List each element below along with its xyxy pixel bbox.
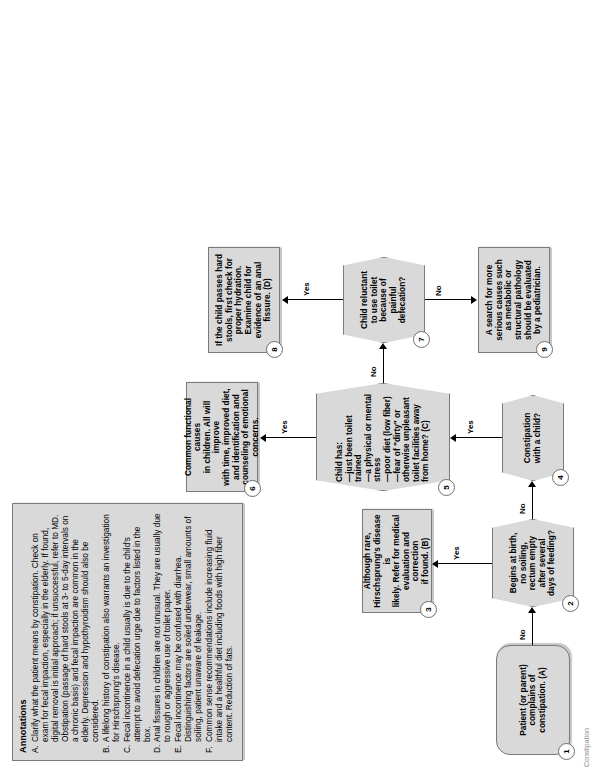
edge-label-4-to-5: Yes: [466, 420, 475, 434]
edge-7-to-8-arrow: [282, 296, 288, 304]
node-1-number-bubble: 1: [558, 743, 575, 760]
edge-2-to-3-line: [438, 563, 492, 564]
node-7-child-reluctant: Child reluctant to use toilet because of…: [343, 257, 425, 343]
edge-label-1-to-2: No: [518, 629, 527, 640]
annotation-key: D.: [153, 742, 173, 753]
flowchart-canvas: Annotations A. Clarify what the patient …: [0, 0, 594, 773]
edge-1-to-2-line: [532, 613, 533, 645]
edge-label-5-to-6: Yes: [280, 420, 289, 434]
node-8-number-bubble: 8: [266, 341, 283, 358]
node-2-text: Begins at birth, no soiling, rectum empt…: [509, 519, 557, 607]
annotation-item: A. Clarify what the patient means by con…: [31, 511, 101, 753]
node-6-common-functional-causes: Common functional causes in children. Al…: [186, 382, 258, 492]
node-7-number: 7: [417, 337, 426, 341]
node-8-number: 8: [270, 347, 279, 351]
node-3-number-bubble: 3: [420, 601, 437, 618]
edge-2-to-4-line: [532, 487, 533, 519]
annotations-panel: Annotations A. Clarify what the patient …: [12, 503, 243, 761]
edge-label-7-to-9: No: [434, 285, 443, 296]
node-3-text: Although rare, Hirschsprung's disease is…: [363, 514, 430, 608]
page-footer-label: Constipation: [583, 728, 590, 767]
annotation-text: Anal fissures in children are not unusua…: [153, 511, 173, 742]
edge-label-2-to-3: Yes: [452, 546, 461, 560]
annotation-key: E.: [174, 742, 204, 753]
annotation-text: Common sense recommendations include inc…: [205, 511, 235, 742]
annotations-list: A. Clarify what the patient means by con…: [31, 511, 235, 753]
annotation-key: F.: [205, 742, 235, 753]
annotation-item: E. Fecal incontinence may be confused wi…: [174, 511, 204, 753]
edge-5-to-6-arrow: [260, 434, 266, 442]
annotation-item: B. A lifelong history of constipation al…: [102, 511, 122, 753]
annotation-text: A lifelong history of constipation also …: [102, 511, 122, 742]
node-5-child-has: Child has: —just been toilet trained —a …: [316, 383, 450, 491]
node-8-hard-stools-hydration: If the child passes hard stools, first c…: [208, 247, 280, 353]
node-7-text: Child reluctant to use toilet because of…: [360, 257, 408, 343]
annotation-item: D. Anal fissures in children are not unu…: [153, 511, 173, 753]
annotation-text: Fecal incontinence may be confused with …: [174, 511, 204, 742]
node-5-number: 5: [442, 485, 451, 489]
node-4-constipation-with-child: Constipation with a child?: [502, 395, 564, 481]
edge-5-to-6-line: [266, 437, 316, 438]
edge-label-7-to-8: Yes: [302, 282, 311, 296]
node-6-number: 6: [248, 486, 257, 490]
edge-2-to-3-arrow: [432, 560, 438, 568]
edge-4-to-5-arrow: [450, 434, 456, 442]
annotations-title: Annotations: [18, 511, 29, 753]
node-6-text: Common functional causes in children. Al…: [184, 387, 261, 487]
node-4-number-bubble: 4: [552, 469, 569, 486]
annotation-item: F. Common sense recommendations include …: [205, 511, 235, 753]
node-2-begins-at-birth: Begins at birth, no soiling, rectum empt…: [492, 519, 574, 607]
annotation-key: A.: [31, 742, 101, 753]
node-4-text: Constipation with a child?: [523, 395, 542, 481]
edge-7-to-9-line: [425, 299, 471, 300]
node-9-text: A search for more serious causes such as…: [485, 252, 543, 348]
node-7-number-bubble: 7: [413, 331, 430, 348]
node-9-number: 9: [540, 347, 549, 351]
node-3-hirschsprung: Although rare, Hirschsprung's disease is…: [362, 509, 432, 613]
annotation-key: B.: [102, 742, 122, 753]
edge-label-2-to-4: No: [518, 503, 527, 514]
node-6-number-bubble: 6: [244, 480, 261, 497]
rotated-page-wrapper: Annotations A. Clarify what the patient …: [0, 0, 594, 773]
node-5-number-bubble: 5: [438, 479, 455, 496]
node-9-serious-causes: A search for more serious causes such as…: [478, 247, 550, 353]
node-1-text: Patient (or parent) complains of constip…: [519, 650, 548, 750]
node-9-number-bubble: 9: [536, 341, 553, 358]
edge-7-to-9-arrow: [471, 296, 477, 304]
edge-7-to-8-line: [288, 299, 343, 300]
annotation-key: C.: [123, 742, 153, 753]
annotation-text: Clarify what the patient means by consti…: [31, 511, 101, 742]
edge-2-to-4-arrow: [528, 481, 536, 487]
node-5-text: Child has: —just been toilet trained —a …: [335, 383, 431, 491]
node-2-number-bubble: 2: [562, 595, 579, 612]
edge-5-to-7-arrow: [379, 343, 387, 349]
edge-1-to-2-arrow: [528, 607, 536, 613]
node-8-text: If the child passes hard stools, first c…: [215, 252, 273, 348]
edge-4-to-5-line: [456, 437, 502, 438]
edge-5-to-7-line: [383, 349, 384, 383]
node-1-patient-complains: Patient (or parent) complains of constip…: [496, 645, 570, 755]
annotation-item: C. Fecal incontinence in a child usually…: [123, 511, 153, 753]
node-3-number: 3: [424, 607, 433, 611]
edge-label-5-to-7: No: [369, 366, 378, 377]
annotation-text: Fecal incontinence in a child usually is…: [123, 511, 153, 742]
node-4-number: 4: [556, 475, 565, 479]
node-2-number: 2: [566, 601, 575, 605]
node-1-number: 1: [562, 749, 571, 753]
